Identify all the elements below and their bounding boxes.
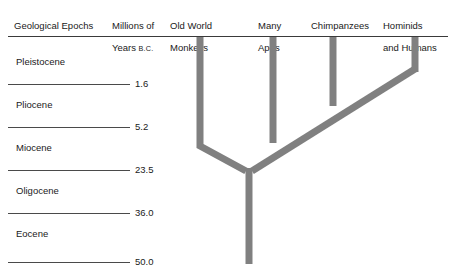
phylogenetic-tree [0,0,455,278]
branch-old-world-monkeys [200,37,246,171]
figure-root: Geological Epochs Millions of Years B.C.… [0,0,455,278]
